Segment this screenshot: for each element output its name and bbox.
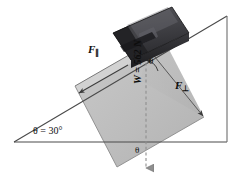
inclined-plane-force-diagram	[0, 0, 246, 184]
incline-angle-label: θ = 30°	[33, 126, 62, 136]
force-parallel-subscript: ∥	[95, 48, 99, 57]
force-perpendicular-label: F⊥	[175, 80, 189, 93]
weight-label: W = 562 N	[133, 40, 143, 84]
angle-marker-bottom-label: θ	[135, 146, 139, 155]
force-perpendicular-subscript: ⊥	[182, 84, 189, 93]
angle-marker-top-label: θ	[149, 57, 153, 66]
force-parallel-label: F∥	[88, 44, 99, 57]
